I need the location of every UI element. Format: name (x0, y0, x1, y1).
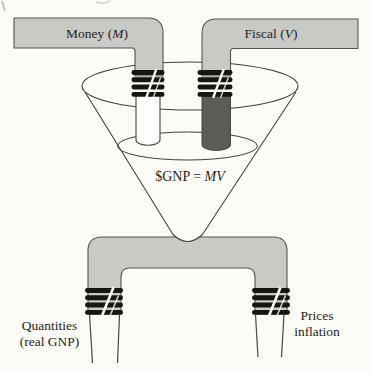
money-inflow-nozzle (136, 93, 160, 145)
quantities-label-line1: Quantities (22, 318, 78, 333)
fiscal-inflow-nozzle (202, 93, 231, 150)
diagram-canvas: Quantities (real GNP) Prices inflation $… (0, 0, 372, 372)
fiscal-pipe-label: Fiscal (V) (245, 26, 298, 41)
mv-funnel-diagram: Quantities (real GNP) Prices inflation $… (0, 0, 372, 372)
quantities-label-line2: (real GNP) (20, 334, 80, 349)
funnel-outer-rim (82, 62, 298, 110)
money-pipe-label: Money (M) (66, 26, 128, 41)
prices-label-line1: Prices (301, 308, 334, 323)
gnp-equation: $GNP = MV (155, 169, 226, 184)
prices-label-line2: inflation (294, 324, 340, 339)
